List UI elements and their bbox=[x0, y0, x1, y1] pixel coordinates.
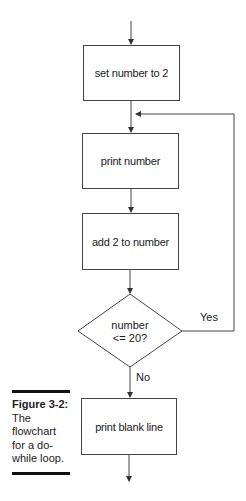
caption-line: flowchart bbox=[12, 425, 70, 439]
decision-label-line1: number bbox=[100, 319, 160, 332]
step-label: print number bbox=[101, 155, 160, 167]
step-label: add 2 to number bbox=[92, 236, 169, 248]
caption-text: Figure 3-2: The flowchart for a do- whil… bbox=[12, 398, 70, 466]
yes-branch-label: Yes bbox=[200, 311, 218, 323]
step-label: print blank line bbox=[95, 421, 163, 433]
step-set-number: set number to 2 bbox=[83, 45, 180, 101]
caption-title: Figure 3-2: bbox=[12, 398, 70, 412]
decision-label: number <= 20? bbox=[100, 319, 160, 345]
caption-line: while loop. bbox=[12, 452, 70, 466]
no-branch-label: No bbox=[136, 371, 150, 383]
step-add-two: add 2 to number bbox=[82, 213, 179, 270]
step-print-blank-line: print blank line bbox=[81, 398, 177, 455]
caption-line: for a do- bbox=[12, 439, 70, 453]
caption-top-rule bbox=[12, 390, 70, 393]
step-label: set number to 2 bbox=[95, 67, 168, 79]
step-print-number: print number bbox=[82, 133, 179, 189]
decision-label-line2: <= 20? bbox=[100, 332, 160, 345]
caption-bottom-rule bbox=[12, 472, 70, 475]
caption-line: The bbox=[12, 412, 70, 426]
figure-caption: Figure 3-2: The flowchart for a do- whil… bbox=[12, 390, 70, 475]
